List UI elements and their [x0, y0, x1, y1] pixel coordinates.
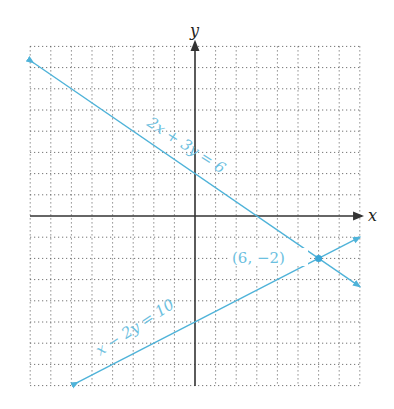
axes: x y: [30, 21, 377, 386]
coordinate-plane: x y 2x + 3y = 6 x − 2y = 10 (6, −2): [0, 0, 394, 409]
intersection: (6, −2): [228, 248, 322, 267]
line-2x-3y-6: 2x + 3y = 6: [33, 63, 360, 287]
y-axis-label: y: [189, 21, 200, 40]
intersection-label: (6, −2): [232, 249, 285, 267]
x-axis-label: x: [368, 206, 377, 225]
line-2x-3y-6-path: [33, 63, 360, 287]
intersection-point: [315, 255, 322, 262]
line-x-2y-10-label: x − 2y = 10: [92, 295, 177, 359]
